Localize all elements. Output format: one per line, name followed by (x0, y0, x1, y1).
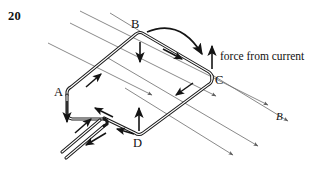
figure-number-label: 20 (8, 10, 21, 23)
lead-wire-outer-top (67, 95, 104, 119)
current-arrow-cd (176, 83, 193, 95)
current-arrow-da (95, 108, 113, 117)
corner-label-a: A (54, 86, 63, 99)
force-from-current-label: force from current (220, 51, 304, 63)
lead-wire-bend (104, 119, 107, 126)
magnetic-field-label: B (276, 111, 283, 122)
corner-label-c: C (215, 74, 223, 87)
lead-wire-outer-top-gap (67, 95, 104, 119)
current-arrow-ab (86, 74, 101, 87)
corner-label-b: B (131, 18, 139, 31)
lead-wires-twisted-pair (62, 95, 107, 158)
current-direction-arrows (75, 49, 193, 145)
loop-in-magnetic-field-diagram (0, 0, 313, 179)
wire-lower-gap (104, 76, 212, 135)
corner-label-d: D (133, 137, 142, 150)
physics-figure: 20 B C A D force from current B (0, 0, 313, 179)
field-line-1 (48, 43, 152, 95)
